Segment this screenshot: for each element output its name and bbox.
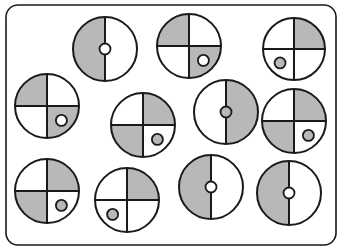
circle-7 — [262, 89, 326, 153]
dot-marker — [152, 134, 163, 145]
circle-10 — [179, 155, 243, 219]
circles-canvas — [0, 0, 344, 251]
dot-marker — [56, 200, 67, 211]
puzzle-diagram — [0, 0, 344, 251]
dot-marker — [56, 115, 67, 126]
circle-group — [15, 14, 326, 232]
dot-marker — [303, 130, 314, 141]
dot-marker — [284, 188, 295, 199]
dot-marker — [107, 209, 118, 220]
circle-9 — [95, 168, 159, 232]
dot-marker — [275, 57, 286, 68]
circle-5 — [111, 93, 175, 157]
circle-6 — [194, 80, 258, 144]
circle-8 — [15, 159, 79, 223]
dot-marker — [206, 182, 217, 193]
circle-3 — [263, 18, 325, 80]
dot-marker — [198, 55, 209, 66]
dot-marker — [100, 44, 111, 55]
circle-2 — [157, 14, 221, 78]
circle-1 — [73, 17, 137, 81]
dot-marker — [221, 107, 232, 118]
circle-4 — [15, 74, 79, 138]
circle-11 — [257, 161, 321, 225]
